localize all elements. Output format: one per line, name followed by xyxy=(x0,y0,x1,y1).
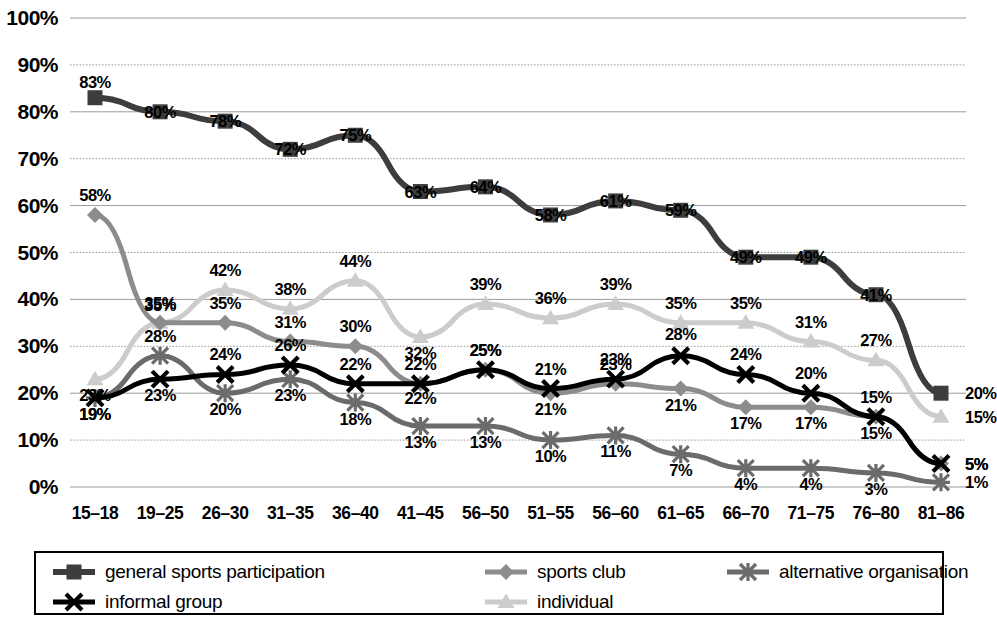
data-value-label: 59% xyxy=(665,201,697,220)
data-value-label: 22% xyxy=(340,354,372,373)
data-value-label: 20% xyxy=(209,400,241,419)
data-value-label: 17% xyxy=(795,414,827,433)
legend-item-individual[interactable]: individual xyxy=(484,587,613,617)
data-point-marker xyxy=(217,315,233,331)
y-axis-tick-label: 30% xyxy=(17,334,58,358)
y-axis-tick-label: 90% xyxy=(17,53,58,77)
x-axis-tick-label: 36–40 xyxy=(332,503,379,524)
data-value-label: 49% xyxy=(730,248,762,267)
legend-label: informal group xyxy=(105,591,222,613)
data-value-label: 11% xyxy=(600,442,631,461)
legend-swatch-cross-icon xyxy=(52,591,96,613)
data-value-label: 24% xyxy=(730,345,762,364)
x-axis-tick-label: 19–25 xyxy=(137,503,184,524)
legend-item-general-sports-participation[interactable]: general sports participation xyxy=(52,557,325,587)
data-value-label: 39% xyxy=(470,275,502,294)
x-axis-tick-label: 81–86 xyxy=(918,503,965,524)
legend-swatch-diamond-icon xyxy=(484,561,528,583)
data-value-label: 4% xyxy=(799,475,822,494)
x-axis-tick-label: 15–18 xyxy=(72,503,119,524)
series-layer xyxy=(0,0,978,500)
data-value-label: 13% xyxy=(470,433,502,452)
data-point-marker xyxy=(88,90,103,105)
legend-item-alternative-organisation[interactable]: alternative organisation xyxy=(726,557,968,587)
data-value-label: 30% xyxy=(340,317,372,336)
data-value-label: 24% xyxy=(209,345,241,364)
data-value-label: 58% xyxy=(79,185,111,204)
data-value-label: 64% xyxy=(470,177,502,196)
data-value-label: 27% xyxy=(860,331,892,350)
legend-label: sports club xyxy=(537,561,626,583)
y-axis-tick-label: 0% xyxy=(29,475,58,499)
x-axis-tick-label: 76–80 xyxy=(853,503,900,524)
data-value-label: 15% xyxy=(860,423,892,442)
legend-item-sports-club[interactable]: sports club xyxy=(484,557,626,587)
data-point-marker xyxy=(498,564,514,580)
data-value-label: 63% xyxy=(405,182,437,201)
data-value-label: 17% xyxy=(730,414,762,433)
x-axis-tick-label: 31–35 xyxy=(267,503,314,524)
data-value-label: 44% xyxy=(340,251,372,270)
data-value-label: 38% xyxy=(274,279,306,298)
y-axis-tick-label: 80% xyxy=(17,100,58,124)
data-value-label: 3% xyxy=(864,479,887,498)
x-axis-tick-label: 56–50 xyxy=(462,503,509,524)
x-axis-tick-label: 66–70 xyxy=(722,503,769,524)
legend-item-informal-group[interactable]: informal group xyxy=(52,587,222,617)
data-value-label: 15% xyxy=(860,387,892,406)
data-value-label: 42% xyxy=(209,261,241,280)
y-axis-tick-label: 20% xyxy=(17,381,58,405)
data-value-label: 35% xyxy=(144,293,176,312)
data-value-label: 31% xyxy=(795,312,827,331)
data-value-label: 23% xyxy=(274,386,306,405)
data-value-label: 23% xyxy=(79,386,111,405)
legend-label: alternative organisation xyxy=(779,561,968,583)
x-axis-tick-label: 61–65 xyxy=(657,503,704,524)
data-value-label: 61% xyxy=(600,191,632,210)
data-value-label: 35% xyxy=(209,293,241,312)
data-point-marker xyxy=(67,565,82,580)
plot-area: 0%10%20%30%40%50%60%70%80%90%100% 83%80%… xyxy=(0,0,978,500)
data-value-label: 36% xyxy=(535,289,567,308)
data-point-marker xyxy=(347,338,363,354)
x-axis-tick-label: 71–75 xyxy=(788,503,835,524)
legend-label: general sports participation xyxy=(105,561,325,583)
data-value-label: 21% xyxy=(535,359,567,378)
data-value-label: 13% xyxy=(405,433,437,452)
y-axis-tick-label: 10% xyxy=(17,428,58,452)
x-axis-tick-label: 51–55 xyxy=(527,503,574,524)
data-value-label: 21% xyxy=(665,395,697,414)
data-point-marker xyxy=(932,473,950,491)
data-point-marker xyxy=(87,207,103,223)
legend: general sports participationsports cluba… xyxy=(34,551,944,615)
data-value-label: 83% xyxy=(79,72,111,91)
x-axis-tick-label: 56–60 xyxy=(592,503,639,524)
data-value-label: 25% xyxy=(470,340,502,359)
x-axis-tick-label: 26–30 xyxy=(202,503,249,524)
y-axis-tick-label: 60% xyxy=(17,194,58,218)
data-value-label: 58% xyxy=(535,205,567,224)
data-value-label: 35% xyxy=(730,293,762,312)
data-value-label: 1% xyxy=(965,473,988,492)
data-value-label: 41% xyxy=(860,285,892,304)
y-axis-tick-label: 50% xyxy=(17,241,58,265)
y-axis-tick-label: 40% xyxy=(17,287,58,311)
data-value-label: 78% xyxy=(209,112,241,131)
data-value-label: 10% xyxy=(535,447,567,466)
data-value-label: 28% xyxy=(144,326,176,345)
legend-label: individual xyxy=(537,591,613,613)
data-value-label: 20% xyxy=(965,384,997,403)
y-axis-tick-label: 100% xyxy=(6,6,58,30)
data-value-label: 19% xyxy=(79,404,111,423)
data-point-marker xyxy=(151,347,169,365)
data-value-label: 75% xyxy=(340,126,372,145)
data-value-label: 32% xyxy=(405,343,437,362)
x-axis-tick-label: 41–45 xyxy=(397,503,444,524)
data-value-label: 35% xyxy=(665,293,697,312)
y-axis-tick-label: 70% xyxy=(17,147,58,171)
data-point-marker xyxy=(934,386,949,401)
data-value-label: 15% xyxy=(965,407,997,426)
data-value-label: 21% xyxy=(535,400,567,419)
data-point-marker xyxy=(739,563,757,581)
data-value-label: 22% xyxy=(405,388,437,407)
